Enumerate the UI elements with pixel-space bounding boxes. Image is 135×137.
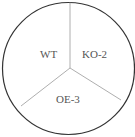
sector-label-oe-3: OE-3 (56, 93, 80, 105)
sector-label-wt: WT (40, 48, 57, 60)
plate-diagram: WT KO-2 OE-3 (0, 0, 135, 137)
plate-outline (3, 3, 135, 135)
sector-label-ko-2: KO-2 (82, 48, 107, 60)
